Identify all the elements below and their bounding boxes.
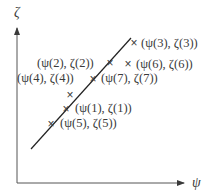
cross-marker-icon: × xyxy=(106,56,113,70)
point-label: (ψ(4), ζ(4)) xyxy=(17,71,74,85)
scatter-diagram: ζ ψ ×(ψ(3), ζ(3))×(ψ(2), ζ(2))×(ψ(6), ζ(… xyxy=(0,0,218,194)
cross-marker-icon: × xyxy=(130,36,137,50)
y-axis-label: ζ xyxy=(14,5,21,20)
cross-marker-icon: × xyxy=(62,102,69,116)
point-label: (ψ(7), ζ(7)) xyxy=(101,71,158,85)
cross-marker-icon: × xyxy=(66,88,73,102)
cross-marker-icon: × xyxy=(47,117,54,131)
point-label: (ψ(2), ζ(2)) xyxy=(37,56,94,70)
point-label: (ψ(1), ζ(1)) xyxy=(75,101,132,115)
cross-marker-icon: × xyxy=(89,72,96,86)
point-label: (ψ(3), ζ(3)) xyxy=(141,36,198,50)
fit-line xyxy=(31,38,131,149)
point-label: (ψ(6), ζ(6)) xyxy=(136,57,193,71)
cross-marker-icon: × xyxy=(124,57,131,71)
x-axis-label: ψ xyxy=(192,175,201,190)
point-label: (ψ(5), ζ(5)) xyxy=(60,116,117,130)
data-points: ×(ψ(3), ζ(3))×(ψ(2), ζ(2))×(ψ(6), ζ(6))(… xyxy=(17,36,198,131)
